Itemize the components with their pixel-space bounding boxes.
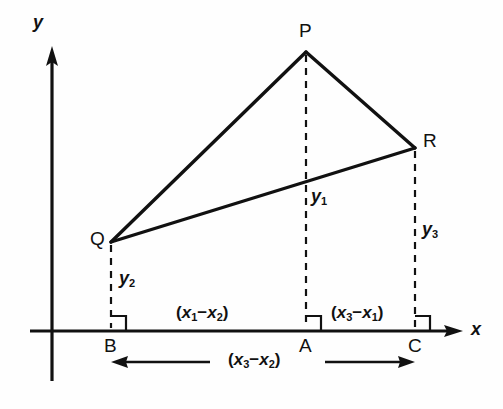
x-axis-label: x (471, 319, 481, 340)
span-label-x3-minus-x2-first-sub: 3 (243, 358, 249, 370)
height-label-y3: y3 (422, 219, 438, 240)
span-label-x3-minus-x1-second-sub: 1 (372, 311, 378, 323)
height-label-y3-sub: 3 (432, 228, 438, 240)
span-label-x1-minus-x2: (x1−x2) (176, 303, 228, 323)
foot-label-c: C (408, 335, 422, 357)
span-label-x1-minus-x2-first-sub: 1 (191, 311, 197, 323)
span-label-x3-minus-x1-second: x (362, 303, 371, 322)
span-label-x3-minus-x1-close: ) (378, 303, 384, 322)
span-label-x1-minus-x2-close: ) (223, 303, 229, 322)
span-label-x1-minus-x2-op: − (197, 303, 207, 322)
foot-label-b: B (104, 335, 117, 357)
vertex-label-r: R (423, 130, 437, 152)
foot-label-a: A (299, 335, 312, 357)
height-label-y2: y2 (119, 268, 135, 289)
right-angle-mark-c (415, 316, 430, 330)
span-label-x3-minus-x1-op: − (352, 303, 362, 322)
vertex-label-q: Q (90, 228, 105, 250)
height-label-y1-var: y (311, 186, 321, 206)
span-label-x3-minus-x2-op: − (249, 350, 259, 369)
span-label-x3-minus-x2-first: x (234, 350, 243, 369)
height-label-y1: y1 (311, 186, 327, 207)
vertex-label-p: P (299, 20, 312, 42)
segment-qr (111, 148, 415, 242)
height-label-y2-var: y (119, 268, 129, 288)
diagram-canvas (0, 0, 503, 409)
height-label-y1-sub: 1 (321, 195, 327, 207)
height-label-y2-sub: 2 (129, 277, 135, 289)
span-label-x3-minus-x2-close: ) (275, 350, 281, 369)
span-label-x3-minus-x2-second: x (259, 350, 268, 369)
right-angle-mark-b (111, 316, 126, 330)
span-label-x3-minus-x2-second-sub: 2 (269, 358, 275, 370)
span-label-x3-minus-x1-first-sub: 3 (346, 311, 352, 323)
segment-pr (306, 52, 415, 148)
right-angle-mark-a (306, 316, 321, 330)
geometry-figure: y x P Q R B A C y1 y2 y3 (x1−x2) (x3−x1)… (0, 0, 503, 409)
triangle-pqr (111, 52, 415, 242)
span-label-x3-minus-x1-first: x (337, 303, 346, 322)
height-label-y3-var: y (422, 219, 432, 239)
span-label-x1-minus-x2-first: x (182, 303, 191, 322)
dimension-arrow-left-head (111, 356, 128, 368)
span-label-x1-minus-x2-second-sub: 2 (217, 311, 223, 323)
axes-group (30, 46, 463, 381)
span-label-x3-minus-x1: (x3−x1) (331, 303, 383, 323)
dimension-arrow-right-head (398, 356, 415, 368)
span-label-x3-minus-x2: (x3−x2) (228, 350, 280, 370)
y-axis-label: y (33, 12, 43, 33)
span-label-x1-minus-x2-second: x (207, 303, 216, 322)
